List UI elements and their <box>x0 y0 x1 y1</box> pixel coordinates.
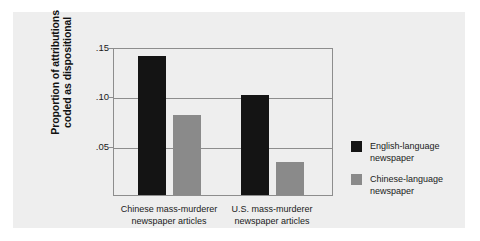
legend-label-english: English-language newspaper <box>370 140 469 164</box>
legend-label-chinese: Chinese-language newspaper <box>370 173 469 197</box>
legend-label-chinese-line-1: Chinese-language <box>370 174 443 184</box>
bar-chinese-articles-english-newspaper <box>138 56 166 195</box>
figure: Proportion of attributions coded as disp… <box>0 0 480 241</box>
y-axis-ticks: .15 .10 .05 <box>85 48 109 196</box>
x-axis-label-group-1: Chinese mass-murderer newspaper articles <box>110 203 228 227</box>
legend-swatch-icon-english <box>351 141 362 152</box>
y-axis-title-line-2: coded as dispositional <box>61 0 73 146</box>
legend-item-english-language-newspaper: English-language newspaper <box>351 140 469 164</box>
legend-swatch-icon-chinese <box>351 174 362 185</box>
bar-us-articles-chinese-newspaper <box>276 162 304 195</box>
y-axis-title-line-1: Proportion of attributions <box>49 0 61 146</box>
plot-area <box>113 48 333 196</box>
legend-item-chinese-language-newspaper: Chinese-language newspaper <box>351 173 469 197</box>
y-tick-label-05: .05 <box>87 142 109 152</box>
x-axis-label-group-1-line-2: newspaper articles <box>110 215 228 227</box>
x-axis-label-group-2-line-2: newspaper articles <box>213 215 331 227</box>
y-tick-label-10: .10 <box>87 92 109 102</box>
bar-chinese-articles-chinese-newspaper <box>173 115 201 195</box>
legend-label-english-line-2: newspaper <box>370 153 414 163</box>
x-axis-label-group-1-line-1: Chinese mass-murderer <box>110 203 228 215</box>
y-tick-label-15: .15 <box>87 43 109 53</box>
y-axis-title: Proportion of attributions coded as disp… <box>49 0 74 146</box>
figure-panel: Proportion of attributions coded as disp… <box>13 12 465 228</box>
legend-label-chinese-line-2: newspaper <box>370 186 414 196</box>
legend-label-english-line-1: English-language <box>370 141 440 151</box>
x-axis-label-group-2-line-1: U.S. mass-murderer <box>213 203 331 215</box>
bar-us-articles-english-newspaper <box>241 95 269 195</box>
legend: English-language newspaper Chinese-langu… <box>351 140 469 207</box>
x-axis-label-group-2: U.S. mass-murderer newspaper articles <box>213 203 331 227</box>
